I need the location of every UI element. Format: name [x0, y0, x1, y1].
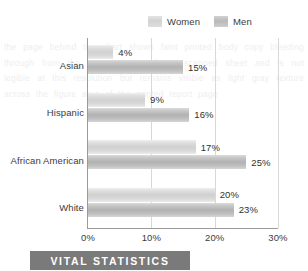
bar-row-african-american-men[interactable]: 25% [88, 155, 271, 169]
bar-value-asian-men: 15% [188, 62, 207, 73]
bar-asian-men[interactable] [88, 60, 183, 74]
xtick-10: 10% [142, 232, 161, 243]
xtick-0: 0% [81, 232, 95, 243]
bar-value-african-american-men: 25% [251, 157, 270, 168]
bar-african-american-men[interactable] [88, 155, 246, 169]
chart-legend: Women Men [148, 14, 252, 28]
bar-white-men[interactable] [88, 203, 234, 217]
bar-value-white-men: 23% [239, 204, 258, 215]
bar-group-asian: 4% 15% [88, 38, 278, 86]
men-swatch-icon [214, 16, 228, 27]
bar-african-american-women[interactable] [88, 140, 196, 154]
bar-value-hispanic-women: 9% [150, 94, 164, 105]
bar-group-african-american: 17% 25% [88, 133, 278, 181]
bar-hispanic-women[interactable] [88, 93, 145, 107]
bar-row-white-men[interactable]: 23% [88, 203, 258, 217]
bar-value-african-american-women: 17% [201, 142, 220, 153]
legend-label-men: Men [233, 16, 252, 27]
bar-value-hispanic-men: 16% [194, 109, 213, 120]
bar-row-asian-women[interactable]: 4% [88, 45, 132, 59]
chart-page: the page behind the chart shows faint pr… [0, 0, 308, 271]
xtick-30: 30% [268, 232, 287, 243]
legend-item-men[interactable]: Men [214, 16, 252, 27]
bar-value-asian-women: 4% [118, 47, 132, 58]
plot-area: 4% 15% 9% 16% 17% [88, 38, 278, 228]
bar-group-white: 20% 23% [88, 181, 278, 229]
bar-row-african-american-women[interactable]: 17% [88, 140, 220, 154]
bar-row-white-women[interactable]: 20% [88, 188, 239, 202]
category-label-white: White [59, 202, 84, 213]
category-label-african-american: African American [11, 155, 84, 166]
bar-value-white-women: 20% [220, 189, 239, 200]
bar-row-hispanic-men[interactable]: 16% [88, 108, 214, 122]
gridline-30 [278, 38, 279, 228]
bar-group-hispanic: 9% 16% [88, 86, 278, 134]
category-label-asian: Asian [60, 60, 84, 71]
bar-row-hispanic-women[interactable]: 9% [88, 93, 164, 107]
vital-statistics-banner: VITAL STATISTICS [30, 251, 190, 270]
bar-asian-women[interactable] [88, 45, 113, 59]
xtick-20: 20% [205, 232, 224, 243]
x-axis-line [87, 228, 278, 229]
vital-statistics-banner-text: VITAL STATISTICS [50, 255, 169, 267]
category-label-hispanic: Hispanic [47, 107, 84, 118]
legend-label-women: Women [167, 16, 200, 27]
bar-hispanic-men[interactable] [88, 108, 189, 122]
bar-white-women[interactable] [88, 188, 215, 202]
legend-item-women[interactable]: Women [148, 16, 200, 27]
women-swatch-icon [148, 16, 162, 27]
bar-row-asian-men[interactable]: 15% [88, 60, 207, 74]
